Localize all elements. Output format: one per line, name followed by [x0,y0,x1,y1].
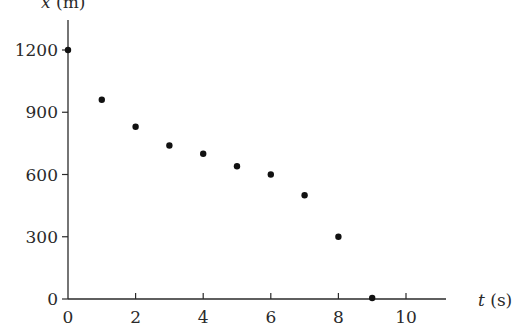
y-tick-label: 1200 [15,40,58,60]
x-axis-unit: (s) [490,290,512,310]
data-point [65,47,71,53]
x-axis-label: t (s) [478,290,512,310]
x-tick-label: 0 [63,307,74,327]
position-time-scatter-chart: 03006009001200 0246810 x (m) t (s) [0,0,518,328]
data-point [99,97,105,103]
x-tick-label: 2 [130,307,141,327]
data-point [234,163,240,169]
y-tick-label: 300 [26,227,58,247]
y-tick-label: 0 [47,289,58,309]
data-point [268,171,274,177]
x-axis-ticks: 0246810 [63,293,417,327]
data-point [200,151,206,157]
data-points [65,47,376,301]
x-tick-label: 8 [333,307,344,327]
data-point [335,234,341,240]
y-tick-label: 600 [26,165,58,185]
x-tick-label: 6 [265,307,276,327]
x-axis-variable: t [478,290,485,310]
data-point [132,124,138,130]
data-point [301,192,307,198]
axes [68,20,446,299]
y-axis-ticks: 03006009001200 [15,40,68,309]
data-point [166,142,172,148]
x-tick-label: 10 [395,307,417,327]
y-tick-label: 900 [26,102,58,122]
y-axis-unit: (m) [56,0,85,12]
y-axis-variable: x [41,0,51,12]
x-tick-label: 4 [198,307,209,327]
y-axis-label: x (m) [41,0,85,12]
data-point [369,295,375,301]
